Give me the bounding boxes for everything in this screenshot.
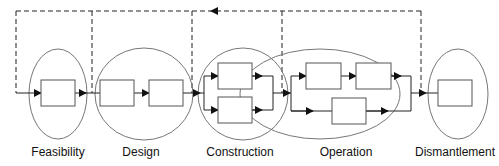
label-dismantlement: Dismantlement (415, 145, 495, 159)
feedback-arrow-icon (210, 7, 218, 15)
box-design-1 (100, 80, 134, 106)
box-operation-1 (306, 63, 341, 89)
box-feasibility-1 (41, 80, 75, 106)
label-design: Design (122, 145, 159, 159)
label-construction: Construction (206, 145, 273, 159)
label-feasibility: Feasibility (31, 145, 84, 159)
box-construction-2 (218, 97, 252, 123)
label-operation: Operation (320, 145, 373, 159)
box-design-2 (149, 80, 183, 106)
box-operation-3 (332, 98, 366, 124)
ellipse-construction (198, 48, 288, 140)
process-boxes (41, 63, 472, 124)
lifecycle-diagram: Feasibility Design Construction Operatio… (0, 0, 499, 166)
box-construction-1 (218, 63, 252, 89)
diagram-canvas (0, 0, 499, 166)
box-dismantlement-1 (438, 80, 472, 106)
phase-ellipses (29, 48, 488, 140)
box-operation-2 (356, 63, 391, 89)
